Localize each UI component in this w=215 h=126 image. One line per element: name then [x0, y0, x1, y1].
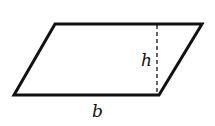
- base-label: b: [92, 101, 103, 121]
- height-label: h: [141, 50, 152, 70]
- parallelogram-diagram: h b: [0, 0, 215, 126]
- parallelogram-shape: [14, 24, 202, 95]
